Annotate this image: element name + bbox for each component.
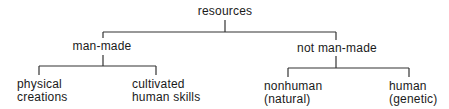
node-label: man-made bbox=[73, 39, 132, 53]
node-label-line-2: human skills bbox=[132, 91, 200, 104]
node-human-genetic: human (genetic) bbox=[389, 80, 438, 106]
node-label: resources bbox=[198, 4, 253, 18]
node-man-made: man-made bbox=[73, 40, 132, 53]
node-label-line-2: creations bbox=[17, 91, 68, 104]
node-cultivated-human-skills: cultivated human skills bbox=[132, 78, 200, 104]
node-label-line-2: (genetic) bbox=[389, 93, 438, 106]
node-nonhuman-natural: nonhuman (natural) bbox=[264, 80, 322, 106]
node-physical-creations: physical creations bbox=[17, 78, 68, 104]
node-label: not man-made bbox=[297, 41, 377, 55]
node-resources: resources bbox=[198, 5, 253, 18]
node-not-man-made: not man-made bbox=[297, 42, 377, 55]
node-label-line-2: (natural) bbox=[264, 93, 322, 106]
